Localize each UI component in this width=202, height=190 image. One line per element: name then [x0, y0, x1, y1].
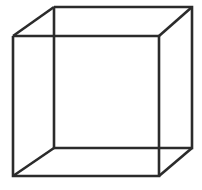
- necker-cube-figure: [0, 0, 202, 190]
- cube-drawing-canvas: [0, 0, 202, 190]
- figure-background: [0, 0, 202, 190]
